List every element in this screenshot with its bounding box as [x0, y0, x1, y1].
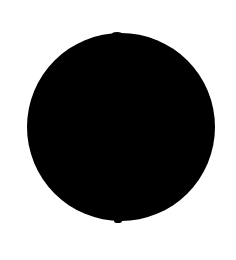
black-circle-shape — [27, 33, 215, 221]
shape-layer — [0, 0, 236, 260]
image-canvas — [0, 0, 236, 260]
